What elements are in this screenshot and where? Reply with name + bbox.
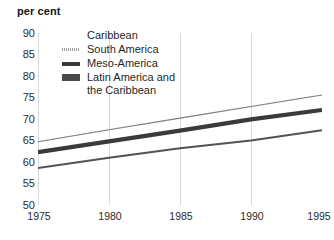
x-tick-label-1975: 1975 <box>19 210 59 222</box>
legend-swatch-caribbean-icon <box>62 34 80 37</box>
legend-item-latin-america: Latin America and the Caribbean <box>62 71 212 96</box>
chart-container: per cent 90 85 80 75 70 65 60 55 50 1975… <box>0 0 334 240</box>
y-tick-label-90: 90 <box>11 28 35 39</box>
x-tick-label-1995: 1995 <box>299 210 334 222</box>
y-tick-label-85: 85 <box>11 49 35 60</box>
y-tick-label-55: 55 <box>11 178 35 189</box>
legend-swatch-meso-america-icon <box>62 62 80 66</box>
y-tick-label-70: 70 <box>11 114 35 125</box>
legend-swatch-latin-america-icon <box>62 74 80 81</box>
legend: Caribbean South America Meso-America Lat… <box>62 29 212 97</box>
legend-item-caribbean: Caribbean <box>62 29 212 42</box>
y-tick-label-80: 80 <box>11 71 35 82</box>
x-tick-label-1985: 1985 <box>161 210 201 222</box>
y-tick-label-75: 75 <box>11 92 35 103</box>
x-tick-label-1990: 1990 <box>232 210 272 222</box>
legend-item-meso-america: Meso-America <box>62 57 212 70</box>
legend-label-caribbean: Caribbean <box>87 29 138 42</box>
legend-label-latin-america: Latin America and the Caribbean <box>87 71 175 96</box>
y-tick-label-60: 60 <box>11 157 35 168</box>
legend-item-south-america: South America <box>62 43 212 56</box>
legend-label-south-america: South America <box>87 43 159 56</box>
y-axis-title: per cent <box>17 5 61 17</box>
x-tick-label-1980: 1980 <box>90 210 130 222</box>
legend-label-meso-america: Meso-America <box>87 57 158 70</box>
y-tick-label-65: 65 <box>11 135 35 146</box>
legend-swatch-south-america-icon <box>62 48 80 51</box>
